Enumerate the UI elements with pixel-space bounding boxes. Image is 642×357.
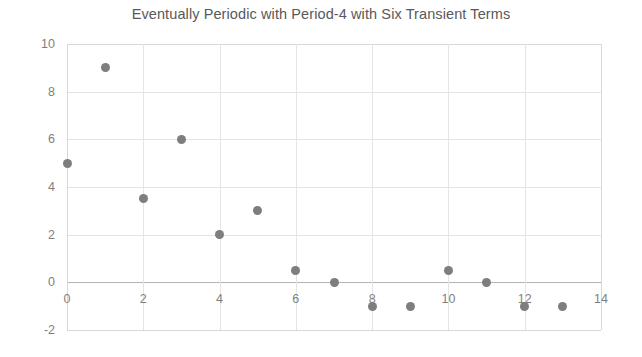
x-tick-label: 14 (594, 292, 608, 306)
x-tick-label: 0 (64, 292, 71, 306)
chart-figure: Eventually Periodic with Period-4 with S… (0, 0, 642, 357)
x-axis-tick-labels: 02468101214 (0, 0, 642, 357)
x-tick-label: 12 (518, 292, 532, 306)
x-tick-label: 8 (369, 292, 376, 306)
x-tick-label: 6 (292, 292, 299, 306)
x-tick-label: 2 (140, 292, 147, 306)
x-tick-label: 4 (216, 292, 223, 306)
x-tick-label: 10 (441, 292, 455, 306)
